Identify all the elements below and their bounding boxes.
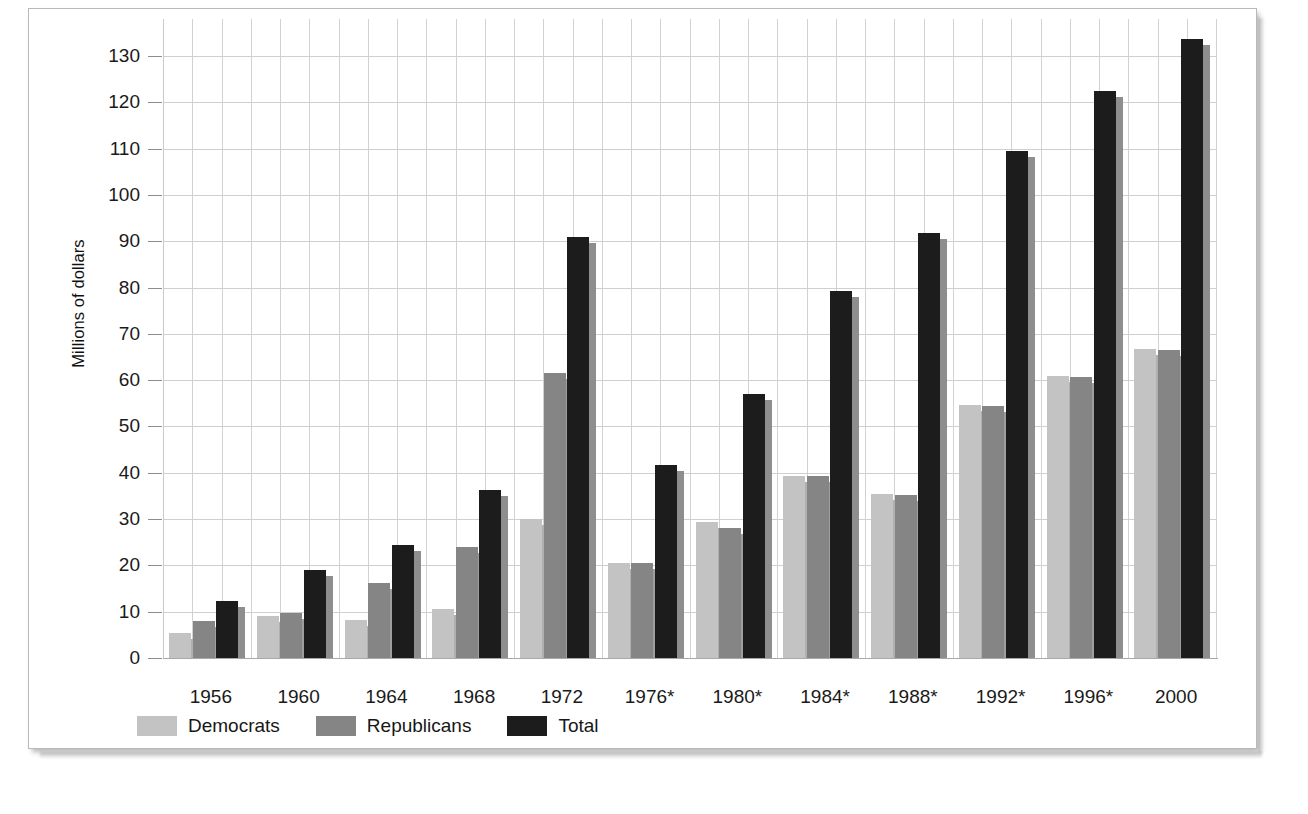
y-tick-mark — [148, 334, 162, 335]
bar-drop-shadow — [326, 576, 333, 658]
bar-face — [696, 522, 718, 658]
y-tick-mark — [148, 56, 162, 57]
bar-total-1976star — [655, 465, 677, 658]
bar-democrats-1960 — [257, 616, 279, 658]
gridline-v — [426, 19, 427, 658]
legend-swatch-total — [507, 716, 547, 736]
x-tick-label-1964: 1964 — [338, 686, 434, 708]
gridline-v — [280, 19, 281, 658]
y-tick-mark — [148, 288, 162, 289]
bar-face — [392, 545, 414, 658]
bar-drop-shadow — [1028, 157, 1035, 658]
bar-face — [216, 601, 238, 658]
gridline-v — [1041, 19, 1042, 658]
y-tick-label: 40 — [94, 463, 140, 482]
y-tick-label: 10 — [94, 602, 140, 621]
bar-democrats-1992star — [959, 405, 981, 658]
bar-total-1972 — [567, 237, 589, 658]
legend-item-democrats: Democrats — [137, 716, 280, 736]
y-tick-label: 110 — [94, 139, 140, 158]
bar-total-1960 — [304, 570, 326, 658]
gridline-v — [309, 19, 310, 658]
bar-face — [895, 495, 917, 658]
bar-republicans-1976star — [631, 563, 653, 658]
bar-face — [520, 519, 542, 658]
y-tick-label: 80 — [94, 278, 140, 297]
gridline-v — [690, 19, 691, 658]
bar-face — [1181, 39, 1203, 658]
bar-face — [280, 613, 302, 658]
bar-drop-shadow — [765, 400, 772, 658]
y-tick-label: 100 — [94, 185, 140, 204]
bar-total-1996star — [1094, 91, 1116, 658]
bar-face — [567, 237, 589, 658]
bar-total-1968 — [479, 490, 501, 658]
legend-label: Republicans — [367, 716, 472, 736]
bar-face — [479, 490, 501, 658]
y-tick-mark — [148, 380, 162, 381]
bar-drop-shadow — [852, 297, 859, 658]
y-tick-mark — [148, 473, 162, 474]
gridline-v — [222, 19, 223, 658]
legend-label: Democrats — [188, 716, 280, 736]
bar-face — [871, 494, 893, 658]
bar-face — [544, 373, 566, 658]
bar-face — [783, 476, 805, 658]
gridline-v — [514, 19, 515, 658]
bar-face — [631, 563, 653, 658]
bar-drop-shadow — [501, 496, 508, 658]
bar-drop-shadow — [589, 243, 596, 658]
y-tick-label: 30 — [94, 509, 140, 528]
gridline-v — [192, 19, 193, 658]
bar-face — [807, 476, 829, 658]
y-tick-label: 0 — [94, 648, 140, 667]
plot-area — [163, 19, 1216, 658]
bar-democrats-1956 — [169, 633, 191, 658]
gridline-v — [865, 19, 866, 658]
bar-democrats-1964 — [345, 620, 367, 658]
gridline-v — [1216, 19, 1217, 658]
gridline-v — [251, 19, 252, 658]
bar-face — [169, 633, 191, 658]
bar-republicans-1980star — [719, 528, 741, 658]
legend-item-total: Total — [507, 716, 598, 736]
bar-face — [1006, 151, 1028, 658]
gridline-v — [953, 19, 954, 658]
bar-face — [982, 406, 1004, 658]
y-tick-mark — [148, 612, 162, 613]
bar-total-2000 — [1181, 39, 1203, 658]
x-tick-label-1976star: 1976* — [602, 686, 698, 708]
x-tick-label-1992star: 1992* — [953, 686, 1049, 708]
bar-drop-shadow — [414, 551, 421, 658]
bar-democrats-2000 — [1134, 349, 1156, 658]
bar-republicans-1956 — [193, 621, 215, 659]
bar-face — [193, 621, 215, 659]
y-tick-label: 70 — [94, 324, 140, 343]
y-tick-mark — [148, 658, 162, 659]
bar-face — [959, 405, 981, 658]
y-axis-title: Millions of dollars — [69, 174, 88, 434]
y-tick-mark — [148, 195, 162, 196]
bar-face — [655, 465, 677, 658]
bar-face — [304, 570, 326, 658]
bar-face — [918, 233, 940, 658]
bar-democrats-1996star — [1047, 376, 1069, 658]
bar-republicans-1964 — [368, 583, 390, 658]
gridline-v — [1128, 19, 1129, 658]
bar-democrats-1988star — [871, 494, 893, 658]
chart-legend: DemocratsRepublicansTotal — [137, 716, 635, 736]
bar-drop-shadow — [238, 607, 245, 658]
x-tick-label-1984star: 1984* — [777, 686, 873, 708]
bar-democrats-1976star — [608, 563, 630, 658]
x-tick-label-1968: 1968 — [426, 686, 522, 708]
x-tick-label-1988star: 1988* — [865, 686, 961, 708]
bar-total-1956 — [216, 601, 238, 658]
bar-total-1988star — [918, 233, 940, 658]
gridline-v — [339, 19, 340, 658]
bar-face — [719, 528, 741, 658]
y-tick-mark — [148, 102, 162, 103]
gridline-v — [368, 19, 369, 658]
bar-face — [257, 616, 279, 658]
bar-face — [608, 563, 630, 658]
bar-face — [1158, 350, 1180, 658]
